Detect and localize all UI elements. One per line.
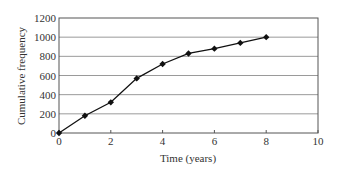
x-tick-label: 6: [212, 135, 218, 147]
data-point-marker: [263, 34, 269, 40]
y-tick-label: 1200: [34, 12, 57, 24]
y-tick-label: 200: [40, 108, 57, 120]
data-point-marker: [211, 45, 217, 51]
y-axis-ticks: 020040060080010001200: [34, 12, 57, 139]
data-markers: [56, 34, 270, 136]
data-point-marker: [159, 61, 165, 67]
y-tick-label: 800: [40, 50, 57, 62]
y-tick-label: 1000: [34, 31, 57, 43]
cumulative-frequency-chart: 020040060080010001200 0246810 Time (year…: [0, 0, 338, 171]
y-axis-label: Cumulative frequency: [15, 26, 27, 125]
data-point-marker: [237, 40, 243, 46]
x-tick-label: 8: [263, 135, 269, 147]
series-line: [59, 37, 266, 133]
x-axis-label: Time (years): [160, 152, 216, 165]
x-tick-label: 0: [56, 135, 62, 147]
data-point-marker: [185, 50, 191, 56]
gridlines: [59, 37, 318, 114]
x-tick-label: 4: [160, 135, 166, 147]
y-tick-label: 400: [40, 89, 57, 101]
x-tick-label: 2: [108, 135, 114, 147]
y-tick-label: 600: [40, 70, 57, 82]
x-tick-label: 10: [313, 135, 325, 147]
